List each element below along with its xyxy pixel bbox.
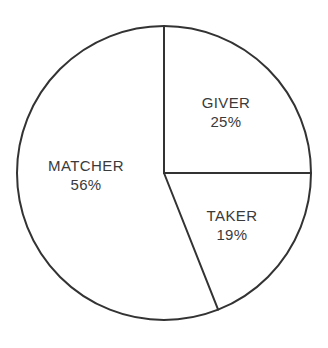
pie-slice-value-taker: 19% [207, 225, 258, 244]
pie-slice-name-giver: GIVER [202, 93, 251, 112]
pie-slice-label-giver: GIVER 25% [202, 93, 251, 131]
pie-slice-label-taker: TAKER 19% [207, 206, 258, 244]
pie-slice-value-giver: 25% [202, 112, 251, 131]
pie-slice-label-matcher: MATCHER 56% [48, 156, 124, 194]
pie-chart: GIVER 25% TAKER 19% MATCHER 56% [0, 0, 328, 348]
pie-slice-name-matcher: MATCHER [48, 156, 124, 175]
pie-slice-value-matcher: 56% [48, 175, 124, 194]
pie-slice-name-taker: TAKER [207, 206, 258, 225]
